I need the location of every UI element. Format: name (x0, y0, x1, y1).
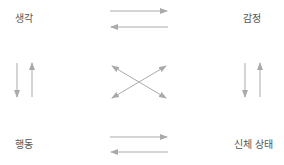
arrow-emotion-to-behavior (112, 82, 139, 98)
arrow-body-to-thought (112, 66, 139, 82)
arrows-layer (0, 0, 284, 165)
arrow-thought-to-body (139, 82, 166, 98)
arrow-behavior-to-emotion (139, 66, 166, 82)
